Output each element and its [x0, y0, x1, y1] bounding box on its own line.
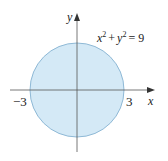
y-axis-label: y — [66, 10, 73, 24]
x-axis-arrow-icon — [147, 87, 155, 93]
circle-figure: y x −3 3 x2+y2= 9 — [0, 0, 168, 161]
chart-svg: y x −3 3 x2+y2= 9 — [0, 0, 168, 161]
x-axis-label: x — [147, 94, 154, 108]
tick-label-3: 3 — [126, 94, 133, 109]
equation-label: x2+y2= 9 — [96, 30, 144, 45]
tick-label-neg3: −3 — [13, 94, 27, 109]
y-axis-arrow-icon — [74, 13, 80, 21]
